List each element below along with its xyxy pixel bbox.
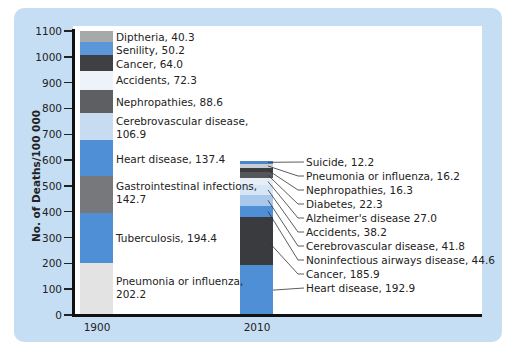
label-2010-pneumonia: Pneumonia or influenza, 16.2 xyxy=(306,170,460,182)
label-2010-noninfectious-airways: Noninfectious airways disease, 44.6 xyxy=(306,254,495,266)
label-1900-cerebrovascular: Cerebrovascular disease,106.9 xyxy=(116,115,248,141)
label-2010-nephropathies: Nephropathies, 16.3 xyxy=(306,184,413,196)
label-2010-cancer: Cancer, 185.9 xyxy=(306,268,380,280)
label-2010-cerebrovascular: Cerebrovascular disease, 41.8 xyxy=(306,240,465,252)
label-1900-diptheria: Diptheria, 40.3 xyxy=(116,31,195,44)
label-2010-alzheimers: Alzheimer's disease 27.0 xyxy=(306,212,437,224)
label-1900-nephropathies: Nephropathies, 88.6 xyxy=(116,96,223,109)
label-1900-tuberculosis: Tuberculosis, 194.4 xyxy=(116,232,217,245)
label-1900-heart-disease: Heart disease, 137.4 xyxy=(116,153,225,166)
label-2010-heart-disease: Heart disease, 192.9 xyxy=(306,282,415,294)
label-1900-senility: Senility, 50.2 xyxy=(116,44,185,57)
label-2010-suicide: Suicide, 12.2 xyxy=(306,156,374,168)
label-1900-accidents: Accidents, 72.3 xyxy=(116,74,197,87)
label-1900-pneumonia: Pneumonia or influenza,202.2 xyxy=(116,275,243,301)
label-1900-cancer: Cancer, 64.0 xyxy=(116,58,183,71)
label-2010-accidents: Accidents, 38.2 xyxy=(306,226,387,238)
label-2010-diabetes: Diabetes, 22.3 xyxy=(306,198,383,210)
label-1900-gastrointestinal: Gastrointestinal infections,142.7 xyxy=(116,180,257,206)
x-axis-line xyxy=(72,314,482,317)
x-label-2010: 2010 xyxy=(237,321,277,333)
x-label-1900: 1900 xyxy=(77,321,117,333)
y-axis-line xyxy=(72,29,75,317)
